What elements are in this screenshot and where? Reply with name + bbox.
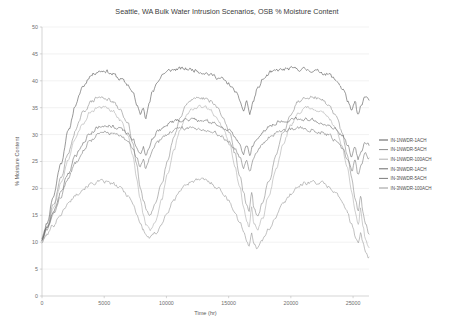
y-tick-label: 45 <box>32 51 38 57</box>
series-line-2 <box>42 105 369 248</box>
y-tick-label: 35 <box>32 105 38 111</box>
series-line-1 <box>42 96 369 241</box>
y-tick-label: 15 <box>32 212 38 218</box>
chart-container: Seattle, WA Bulk Water Intrusion Scenari… <box>0 0 454 329</box>
y-tick-label: 20 <box>32 185 38 191</box>
y-tick-label: 5 <box>35 266 38 272</box>
y-tick-label: 40 <box>32 78 38 84</box>
series-line-5 <box>42 178 369 258</box>
legend-label: IN-1NWDR-100ACH <box>391 157 432 162</box>
y-tick-label: 25 <box>32 158 38 164</box>
x-tick-label: 25000 <box>346 300 361 306</box>
legend-label: IN-3NWDR-100ACH <box>391 186 432 191</box>
legend-item[interactable]: IN-1NWDR-5ACH <box>379 147 427 152</box>
x-tick-label: 10000 <box>159 300 174 306</box>
chart-legend: IN-1NWDR-1ACHIN-1NWDR-5ACHIN-1NWDR-100AC… <box>379 138 432 191</box>
legend-label: IN-3NWDR-5ACH <box>391 176 427 181</box>
legend-item[interactable]: IN-3NWDR-1ACH <box>379 167 427 172</box>
x-tick-label: 20000 <box>283 300 298 306</box>
series-line-3 <box>42 117 369 239</box>
chart-plot-area: 05101520253035404550 0500010000150002000… <box>0 0 454 329</box>
series-line-4 <box>42 126 369 240</box>
data-series <box>42 66 369 258</box>
gridlines <box>42 27 369 269</box>
y-tick-label: 0 <box>35 293 38 299</box>
axis-titles: Time (hr)% Moisture Content <box>14 136 217 316</box>
x-axis-title: Time (hr) <box>194 310 217 316</box>
legend-item[interactable]: IN-3NWDR-5ACH <box>379 176 427 181</box>
legend-label: IN-1NWDR-1ACH <box>391 138 427 143</box>
y-tick-label: 50 <box>32 24 38 30</box>
legend-label: IN-3NWDR-1ACH <box>391 167 427 172</box>
y-tick-label: 30 <box>32 132 38 138</box>
legend-label: IN-1NWDR-5ACH <box>391 147 427 152</box>
legend-item[interactable]: IN-1NWDR-100ACH <box>379 157 432 162</box>
legend-item[interactable]: IN-1NWDR-1ACH <box>379 138 427 143</box>
x-tick-label: 5000 <box>98 300 110 306</box>
y-axis-ticks: 05101520253035404550 <box>32 24 42 299</box>
x-tick-label: 0 <box>41 300 44 306</box>
x-axis-ticks: 0500010000150002000025000 <box>41 296 361 306</box>
y-axis-title: % Moisture Content <box>14 136 20 186</box>
series-line-0 <box>42 66 369 239</box>
x-tick-label: 15000 <box>221 300 236 306</box>
y-tick-label: 10 <box>32 239 38 245</box>
legend-item[interactable]: IN-3NWDR-100ACH <box>379 186 432 191</box>
